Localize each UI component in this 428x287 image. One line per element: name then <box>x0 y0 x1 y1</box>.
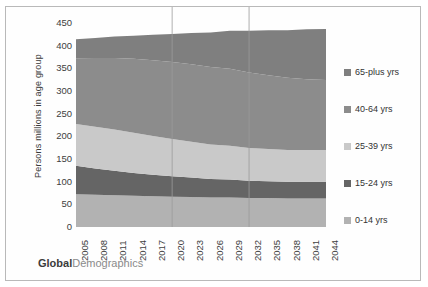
x-tick-2032: 2032 <box>253 240 263 261</box>
x-tick-2029: 2029 <box>234 240 244 261</box>
y-tick-0: 0 <box>40 222 72 232</box>
chart-legend: 65-plus yrs40-64 yrs25-39 yrs15-24 yrs0-… <box>344 67 428 239</box>
legend-item-0-14-yrs[interactable]: 0-14 yrs <box>344 215 388 225</box>
x-tick-2017: 2017 <box>157 240 167 261</box>
y-tick-200: 200 <box>40 131 72 141</box>
y-tick-350: 350 <box>40 63 72 73</box>
legend-label: 65-plus yrs <box>355 67 399 77</box>
y-tick-300: 300 <box>40 86 72 96</box>
legend-label: 15-24 yrs <box>355 178 393 188</box>
x-tick-2038: 2038 <box>292 240 302 261</box>
plot-area <box>76 23 326 227</box>
legend-item-40-64-yrs[interactable]: 40-64 yrs <box>344 104 393 114</box>
chart-frame: Persons millions in age group 0501001502… <box>5 6 421 281</box>
x-tick-2020: 2020 <box>176 240 186 261</box>
y-tick-250: 250 <box>40 109 72 119</box>
y-tick-450: 450 <box>40 18 72 28</box>
watermark-rest: Demographics <box>72 257 143 269</box>
legend-label: 25-39 yrs <box>355 141 393 151</box>
watermark-bold: Global <box>38 257 72 269</box>
legend-swatch-icon <box>344 143 351 150</box>
legend-swatch-icon <box>344 217 351 224</box>
legend-swatch-icon <box>344 69 351 76</box>
legend-item-15-24-yrs[interactable]: 15-24 yrs <box>344 178 393 188</box>
area-series-0-14-yrs <box>76 194 326 227</box>
x-tick-2035: 2035 <box>272 240 282 261</box>
legend-label: 40-64 yrs <box>355 104 393 114</box>
y-tick-150: 150 <box>40 154 72 164</box>
x-tick-2023: 2023 <box>195 240 205 261</box>
y-tick-400: 400 <box>40 41 72 51</box>
legend-swatch-icon <box>344 180 351 187</box>
y-tick-50: 50 <box>40 199 72 209</box>
x-tick-2026: 2026 <box>215 240 225 261</box>
legend-item-25-39-yrs[interactable]: 25-39 yrs <box>344 141 393 151</box>
legend-item-65-plus-yrs[interactable]: 65-plus yrs <box>344 67 399 77</box>
legend-label: 0-14 yrs <box>355 215 388 225</box>
x-tick-2044: 2044 <box>330 240 340 261</box>
y-axis-tick-labels: 050100150200250300350400450 <box>40 17 72 233</box>
watermark: GlobalDemographics <box>38 257 143 269</box>
legend-swatch-icon <box>344 106 351 113</box>
y-tick-100: 100 <box>40 177 72 187</box>
x-tick-2041: 2041 <box>311 240 321 261</box>
stacked-area-chart <box>76 23 326 227</box>
